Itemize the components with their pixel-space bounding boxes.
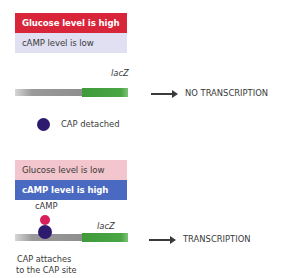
glucose-high-box: Glucose level is high bbox=[15, 13, 127, 33]
arrow-icon bbox=[151, 93, 175, 95]
cap-protein-icon bbox=[37, 118, 50, 131]
cap-protein-bound-icon bbox=[38, 225, 52, 239]
camp-molecule-label: cAMP bbox=[35, 201, 58, 211]
arrow-icon bbox=[149, 239, 173, 241]
lacz-label-bottom: lacZ bbox=[97, 221, 115, 231]
camp-low-box: cAMP level is low bbox=[15, 33, 127, 53]
cap-attaches-label: CAP attaches bbox=[17, 254, 71, 264]
transcription-label: TRANSCRIPTION bbox=[183, 234, 251, 244]
glucose-low-box: Glucose level is low bbox=[15, 160, 127, 180]
camp-high-box: cAMP level is high bbox=[15, 180, 127, 200]
cap-detached-label: CAP detached bbox=[61, 119, 120, 129]
lacz-gene-bottom bbox=[82, 233, 128, 242]
lacz-label-top: lacZ bbox=[111, 68, 129, 78]
lacz-gene-top bbox=[82, 88, 128, 97]
dna-strand-top bbox=[15, 89, 83, 96]
camp-molecule-icon bbox=[40, 215, 50, 225]
cap-site-label: to the CAP site bbox=[16, 265, 77, 275]
no-transcription-label: NO TRANSCRIPTION bbox=[185, 88, 268, 98]
